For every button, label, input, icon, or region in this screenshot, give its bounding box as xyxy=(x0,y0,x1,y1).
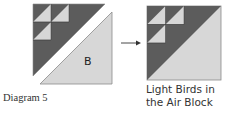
arrow-right-icon xyxy=(121,41,141,46)
block-caption: Light Birds in the Air Block xyxy=(146,83,230,109)
finished-block xyxy=(147,6,221,80)
caption-line-2: the Air Block xyxy=(146,96,230,109)
caption-line-1: Light Birds in xyxy=(146,83,230,96)
diagram-label: Diagram 5 xyxy=(3,92,48,103)
piece-b-label: B xyxy=(84,55,92,68)
